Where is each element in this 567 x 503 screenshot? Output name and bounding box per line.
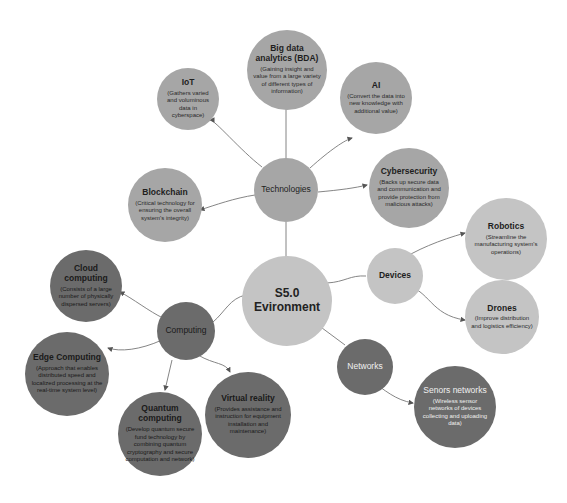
node-title: Cloud computing <box>56 264 116 284</box>
node-title: Quantum computing <box>124 404 196 424</box>
node-title: Cybersecurity <box>381 167 438 177</box>
node-edge-computing: Edge Computing (Approach that enables di… <box>25 332 109 416</box>
node-title: Big data analytics (BDA) <box>253 44 321 64</box>
hub-technologies: Technologies <box>254 158 318 222</box>
node-desc: (Consists of a large number of physicall… <box>56 286 116 309</box>
center-title: S5.0 Evironment <box>248 287 326 315</box>
hub-label: Networks <box>347 362 382 372</box>
node-desc: (Gaining insight and value from a large … <box>253 66 321 96</box>
node-title: IoT <box>182 78 195 88</box>
hub-label: Computing <box>165 326 206 336</box>
node-title: Virtual reality <box>221 394 275 404</box>
hub-devices: Devices <box>367 248 423 304</box>
node-robotics: Robotics (Streamline the manufacturing s… <box>465 198 547 280</box>
node-big-data-analytics: Big data analytics (BDA) (Gaining insigh… <box>247 30 327 110</box>
center-node-s5-environment: S5.0 Evironment <box>242 256 332 346</box>
node-desc: (Improve distribution and logistics effi… <box>471 315 533 330</box>
node-title: Blockchain <box>142 188 187 198</box>
hub-label: Devices <box>379 271 411 281</box>
node-desc: (Backs up secure data and communication … <box>375 179 443 209</box>
node-drones: Drones (Improve distribution and logisti… <box>465 280 539 354</box>
hub-label: Technologies <box>261 185 311 195</box>
node-quantum-computing: Quantum computing (Develop quantum secur… <box>118 392 202 476</box>
node-desc: (Develop quantum secure fund technology … <box>124 426 196 464</box>
node-desc: (Provides assistance and instruction for… <box>211 406 285 436</box>
node-sensor-networks: Senors networks (Wireless sensor network… <box>414 366 496 448</box>
node-title: Edge Computing <box>33 353 101 363</box>
node-cybersecurity: Cybersecurity (Backs up secure data and … <box>369 148 449 228</box>
node-desc: (Approach that enables distributed speed… <box>31 365 103 395</box>
node-desc: (Gathers varied and voluminous data in c… <box>163 90 213 120</box>
node-title: AI <box>372 81 381 91</box>
node-desc: (Wireless sensor networks of devices col… <box>420 398 490 428</box>
node-iot: IoT (Gathers varied and voluminous data … <box>157 68 219 130</box>
node-desc: (Convert the data into new knowledge wit… <box>346 93 406 116</box>
node-blockchain: Blockchain (Critical technology for ensu… <box>128 168 202 242</box>
node-title: Senors networks <box>423 386 486 396</box>
node-desc: (Streamline the manufacturing system's o… <box>471 234 541 257</box>
node-title: Robotics <box>488 222 524 232</box>
node-virtual-reality: Virtual reality (Provides assistance and… <box>205 372 291 458</box>
hub-networks: Networks <box>337 339 393 395</box>
node-ai: AI (Convert the data into new knowledge … <box>340 62 412 134</box>
node-cloud-computing: Cloud computing (Consists of a large num… <box>50 250 122 322</box>
node-desc: (Critical technology for ensuring the ov… <box>134 200 196 223</box>
node-title: Drones <box>487 304 516 314</box>
hub-computing: Computing <box>157 302 215 360</box>
